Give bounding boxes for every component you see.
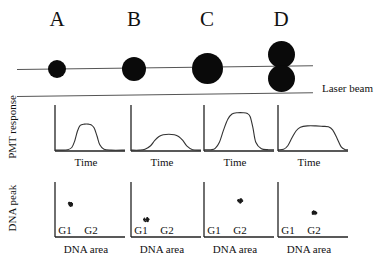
pmt-panel-d: Time	[266, 101, 352, 175]
dna-panel-d: G1 G2 DNA area	[266, 180, 352, 261]
dna-cluster-dot	[314, 212, 316, 214]
dna-cluster-dot	[71, 204, 72, 205]
dna-gate-g1-a: G1	[55, 224, 75, 237]
dna-cluster-dot	[145, 220, 147, 222]
flow-cytometry-doublet-figure: A B C D Laser beam PMT response Time	[0, 0, 391, 261]
dna-cluster-dot	[242, 199, 243, 200]
cell-b	[122, 57, 146, 81]
dna-cluster-dot	[240, 198, 241, 199]
dna-cluster-dot	[71, 202, 72, 203]
pmt-x-axis-label-d: Time	[266, 156, 352, 169]
dna-cluster-dot	[313, 213, 314, 214]
dna-cluster-dot	[69, 205, 71, 207]
column-letter-b: B	[114, 8, 154, 30]
dna-cluster-dot	[69, 203, 71, 205]
dna-gate-g2-d: G2	[304, 224, 324, 237]
dna-cluster-dot	[239, 202, 241, 204]
cell-d-doublet-body-2	[268, 65, 295, 92]
dna-cluster-dot	[313, 212, 314, 213]
cell-c	[192, 53, 223, 84]
pmt-x-axis-label-a: Time	[43, 156, 129, 169]
dna-panel-a: G1 G2 DNA area	[43, 180, 129, 261]
dna-gate-g2-c: G2	[230, 224, 250, 237]
pmt-plot-d	[266, 101, 352, 159]
dna-x-axis-label-a: DNA area	[43, 243, 129, 256]
pmt-y-axis-label: PMT response	[6, 94, 18, 160]
cell-d-doublet-body-1	[268, 41, 295, 68]
pmt-panel-a: Time	[43, 101, 129, 175]
dna-cluster-dot	[146, 220, 147, 221]
dna-scatter-row: DNA peak G1 G2 DNA area G1 G2	[0, 180, 391, 261]
dna-gate-g1-d: G1	[278, 224, 298, 237]
dna-gate-g2-b: G2	[157, 224, 177, 237]
dna-gate-g2-a: G2	[81, 224, 101, 237]
dna-cluster-dot	[68, 203, 69, 204]
laser-beam-label: Laser beam	[322, 82, 373, 95]
pmt-response-row: PMT response Time Time Time	[0, 101, 391, 175]
dna-gate-g1-b: G1	[131, 224, 151, 237]
dna-cluster-dot	[240, 200, 241, 201]
dna-cluster-dot	[238, 200, 240, 202]
column-letter-c: C	[187, 8, 227, 30]
dna-gate-g1-c: G1	[204, 224, 224, 237]
pmt-plot-a	[43, 101, 129, 159]
dna-x-axis-label-d: DNA area	[266, 243, 352, 256]
laser-beam-band: Laser beam	[0, 36, 391, 100]
laser-beam-line-bottom	[17, 92, 313, 97]
column-letter-d: D	[261, 8, 301, 30]
dna-cluster-dot	[145, 219, 146, 220]
dna-cluster-dot	[146, 217, 147, 218]
dna-y-axis-label: DNA peak	[6, 180, 18, 236]
dna-cluster-dot	[144, 218, 145, 219]
column-letter-a: A	[37, 8, 77, 30]
cell-a	[48, 60, 66, 78]
